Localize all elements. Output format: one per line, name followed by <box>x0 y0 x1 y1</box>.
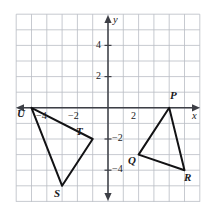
tick-label-y-neg2: −2 <box>112 133 123 143</box>
tick-label-y-pos4: 4 <box>96 40 101 50</box>
y-axis-arrow-down <box>104 193 111 201</box>
y-axis-label: y <box>113 15 118 26</box>
x-axis-label: x <box>192 111 197 122</box>
coordinate-plane-figure: −4 −2 2 4 2 −2 −4 y x P Q R U T S <box>0 0 210 216</box>
axes <box>16 15 200 201</box>
y-axis-arrow-up <box>104 15 111 23</box>
tick-label-y-neg4: −4 <box>112 164 123 174</box>
tick-label-x-neg2: −2 <box>68 111 79 121</box>
vertex-label-t: T <box>76 126 83 137</box>
vertex-label-r: R <box>184 172 191 183</box>
tick-label-x-pos2: 2 <box>131 111 136 121</box>
vertex-label-u: U <box>17 108 25 119</box>
tick-label-y-pos2: 2 <box>96 71 101 81</box>
vertex-label-q: Q <box>128 155 136 166</box>
tick-label-x-neg4: −4 <box>36 111 47 121</box>
vertex-label-s: S <box>54 188 60 199</box>
vertex-label-p: P <box>170 90 177 101</box>
coordinate-plane-svg <box>0 0 210 216</box>
